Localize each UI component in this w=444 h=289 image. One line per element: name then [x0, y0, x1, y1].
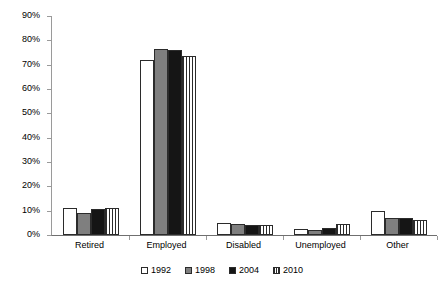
- y-axis-tick-mark: [47, 16, 51, 17]
- bar-group-bars: [206, 16, 283, 235]
- legend-label: 1998: [195, 266, 215, 275]
- bar-group-bars: [129, 16, 206, 235]
- bar-retired-2010[interactable]: [105, 208, 119, 235]
- bar-group-bars: [52, 16, 129, 235]
- y-axis-tick-label: 20%: [22, 181, 40, 190]
- x-axis-category-label: Other: [359, 240, 436, 251]
- legend-swatch-icon: [141, 267, 148, 274]
- y-axis-tick-mark: [47, 65, 51, 66]
- plot-wrapper: 90%80%70%60%50%40%30%20%10%0% RetiredEmp…: [0, 0, 444, 258]
- bar-group: [129, 16, 206, 235]
- legend-item-1998[interactable]: 1998: [185, 266, 215, 275]
- legend-swatch-icon: [273, 267, 280, 274]
- bar-retired-1992[interactable]: [63, 208, 77, 235]
- x-axis-category-label: Unemployed: [282, 240, 359, 251]
- legend-item-2004[interactable]: 2004: [229, 266, 259, 275]
- y-axis-tick-mark: [47, 186, 51, 187]
- y-axis-tick-label: 0%: [27, 230, 40, 239]
- plot-area: [51, 16, 437, 236]
- x-axis-labels: RetiredEmployedDisabledUnemployedOther: [51, 240, 436, 254]
- x-axis-category-label: Disabled: [205, 240, 282, 251]
- bar-disabled-2010[interactable]: [259, 225, 273, 235]
- bar-other-2010[interactable]: [413, 220, 427, 235]
- bar-employed-1992[interactable]: [140, 60, 154, 235]
- y-axis-tick-label: 80%: [22, 35, 40, 44]
- legend-label: 2010: [283, 266, 303, 275]
- y-axis-tick-label: 30%: [22, 157, 40, 166]
- x-axis-category-label: Retired: [51, 240, 128, 251]
- bar-unemployed-2010[interactable]: [336, 224, 350, 235]
- bar-disabled-1992[interactable]: [217, 223, 231, 235]
- legend-item-1992[interactable]: 1992: [141, 266, 171, 275]
- bar-retired-1998[interactable]: [77, 213, 91, 235]
- bar-employed-2004[interactable]: [168, 50, 182, 235]
- legend-item-2010[interactable]: 2010: [273, 266, 303, 275]
- y-axis-tick-label: 40%: [22, 133, 40, 142]
- y-axis-tick-label: 90%: [22, 11, 40, 20]
- legend-swatch-icon: [185, 267, 192, 274]
- bar-retired-2004[interactable]: [91, 209, 105, 235]
- bar-disabled-1998[interactable]: [231, 224, 245, 235]
- bar-group-bars: [360, 16, 437, 235]
- y-axis-tick-mark: [47, 138, 51, 139]
- x-axis-separator-tick: [437, 236, 438, 240]
- legend-label: 1992: [151, 266, 171, 275]
- bar-unemployed-1998[interactable]: [308, 230, 322, 235]
- y-axis-tick-mark: [47, 40, 51, 41]
- y-axis-tick-label: 70%: [22, 60, 40, 69]
- bar-group-bars: [283, 16, 360, 235]
- x-axis-category-label: Employed: [128, 240, 205, 251]
- bar-group: [360, 16, 437, 235]
- legend-swatch-icon: [229, 267, 236, 274]
- y-axis-tick-mark: [47, 162, 51, 163]
- y-axis-tick-mark: [47, 113, 51, 114]
- bar-group: [52, 16, 129, 235]
- bar-chart: 90%80%70%60%50%40%30%20%10%0% RetiredEmp…: [0, 0, 444, 289]
- y-axis-tick-label: 60%: [22, 84, 40, 93]
- y-axis-tick-mark: [47, 211, 51, 212]
- legend-label: 2004: [239, 266, 259, 275]
- bar-unemployed-2004[interactable]: [322, 228, 336, 235]
- bar-other-1992[interactable]: [371, 211, 385, 235]
- y-axis-tick-label: 50%: [22, 108, 40, 117]
- bar-unemployed-1992[interactable]: [294, 229, 308, 235]
- bar-employed-1998[interactable]: [154, 49, 168, 235]
- chart-legend: 1992199820042010: [0, 266, 444, 275]
- y-axis-tick-label: 10%: [22, 206, 40, 215]
- bar-other-2004[interactable]: [399, 218, 413, 235]
- y-axis-tick-mark: [47, 235, 51, 236]
- bar-group: [283, 16, 360, 235]
- bar-other-1998[interactable]: [385, 218, 399, 235]
- y-axis-labels: 90%80%70%60%50%40%30%20%10%0%: [0, 0, 46, 258]
- y-axis-tick-mark: [47, 89, 51, 90]
- bar-employed-2010[interactable]: [182, 56, 196, 235]
- bar-disabled-2004[interactable]: [245, 225, 259, 235]
- bar-group: [206, 16, 283, 235]
